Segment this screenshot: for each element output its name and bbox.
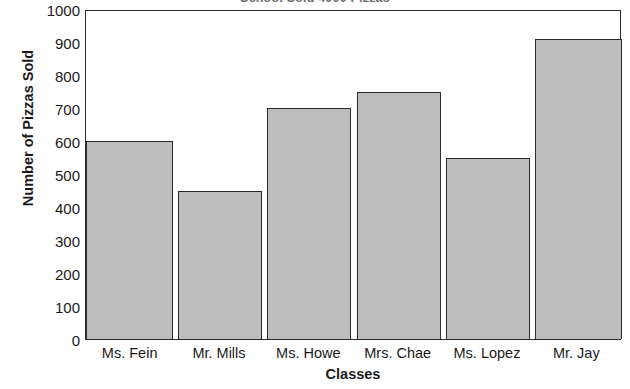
x-axis-tick-label: Mr. Jay <box>532 344 621 362</box>
bar <box>178 191 262 340</box>
y-axis-tick-label: 900 <box>0 36 80 51</box>
y-axis-tick-label: 300 <box>0 234 80 249</box>
bar-chart: School Sold 4000 Pizzas Number of Pizzas… <box>0 0 630 389</box>
x-axis-tick-label: Mr. Mills <box>174 344 263 362</box>
y-axis-tick-label: 700 <box>0 102 80 117</box>
x-axis-tick-label: Ms. Fein <box>85 344 174 362</box>
y-axis-tick-label: 400 <box>0 201 80 216</box>
x-axis-tick-label: Ms. Lopez <box>442 344 531 362</box>
x-axis-tick-label: Ms. Howe <box>264 344 353 362</box>
bar <box>535 39 622 339</box>
x-axis-title: Classes <box>85 366 621 382</box>
y-axis-tick-labels: 10009008007006005004003002001000 <box>0 0 80 389</box>
x-axis-tick-label: Mrs. Chae <box>353 344 442 362</box>
bar <box>86 141 173 339</box>
y-axis-tick-label: 500 <box>0 168 80 183</box>
y-axis-tick-label: 0 <box>0 333 80 348</box>
bars-container <box>86 11 620 339</box>
y-axis-tick-label: 100 <box>0 300 80 315</box>
y-axis-tick-label: 200 <box>0 267 80 282</box>
bar <box>446 158 530 340</box>
chart-title: School Sold 4000 Pizzas <box>0 0 630 5</box>
x-axis-tick-labels: Ms. FeinMr. MillsMs. HoweMrs. ChaeMs. Lo… <box>85 344 621 366</box>
y-axis-tick-label: 1000 <box>0 3 80 18</box>
bar <box>357 92 441 340</box>
bar <box>267 108 351 339</box>
plot-area <box>85 10 621 340</box>
y-axis-tick-label: 800 <box>0 69 80 84</box>
y-axis-tick-label: 600 <box>0 135 80 150</box>
